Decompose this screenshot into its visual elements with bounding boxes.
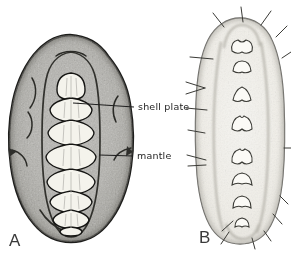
panel-letter-b: B <box>199 228 210 247</box>
plate-remnant-5 <box>232 149 252 164</box>
shell-plate-8 <box>60 227 82 236</box>
mantle-label: mantle <box>137 150 172 161</box>
panel-letter-a: A <box>9 231 21 250</box>
plate-remnant-2 <box>233 61 251 73</box>
figure-panel-a <box>5 30 140 248</box>
shell-plate-label: shell plate <box>138 101 189 112</box>
plate-remnant-1 <box>232 40 253 53</box>
diagram-svg: shell plate mantle A B <box>0 0 291 257</box>
figure-panel-b <box>186 7 291 249</box>
chiton-diagram: shell plate mantle A B <box>0 0 291 257</box>
